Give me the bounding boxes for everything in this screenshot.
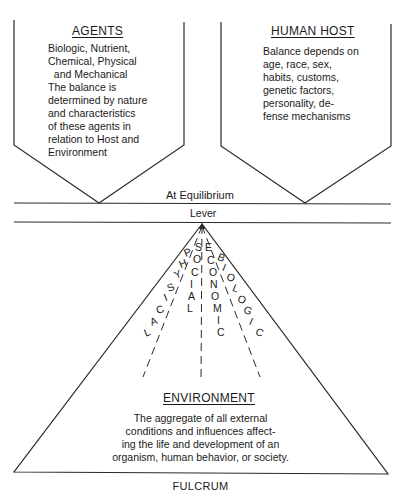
fan-letter: L: [187, 303, 193, 313]
host-line: Balance depends on: [263, 45, 359, 58]
agents-line: The balance is: [48, 81, 116, 94]
fan-letter: O: [193, 254, 201, 264]
host-line: fense mechanisms: [263, 110, 351, 123]
environment-line: The aggregate of all external: [0, 412, 401, 425]
environment-line: conditions and influences affect-: [0, 425, 401, 438]
environment-line: organism, human behavior, or society.: [0, 451, 401, 464]
fan-letter: O: [211, 291, 219, 301]
fan-letter: S: [195, 242, 202, 252]
equilibrium-label: At Equilibrium: [166, 189, 234, 202]
agents-title: AGENTS: [72, 25, 123, 38]
fan-letter: E: [205, 242, 212, 252]
host-line: habits, customs,: [263, 71, 339, 84]
agents-line: Environment: [48, 146, 107, 159]
agents-line: relation to Host and: [48, 133, 139, 146]
environment-title: ENVIRONMENT: [163, 392, 255, 405]
fan-letter: C: [207, 255, 215, 265]
fan-letter: O: [209, 267, 217, 277]
fan-letter: C: [217, 327, 225, 337]
fan-letter: M: [213, 303, 222, 313]
agents-line: and Mechanical: [48, 68, 127, 81]
lever-label: Lever: [190, 207, 216, 220]
lever-top-line: [14, 203, 391, 204]
agents-line: and characteristics: [48, 107, 136, 120]
lever-bottom-line: [14, 222, 391, 223]
host-line: age, race, sex,: [263, 58, 332, 71]
agents-line: Chemical, Physical: [48, 55, 137, 68]
environment-line: ing the life and development of an: [0, 438, 401, 451]
agents-line: determined by nature: [48, 94, 147, 107]
fan-letter: C: [191, 267, 199, 277]
host-line: personality, de-: [263, 97, 334, 110]
agents-line: Biologic, Nutrient,: [48, 42, 130, 55]
fulcrum-label: FULCRUM: [0, 480, 401, 493]
fan-letter: A: [188, 291, 195, 301]
agents-line: of these agents in: [48, 120, 131, 133]
fan-letter: N: [210, 279, 218, 289]
host-line: genetic factors,: [263, 84, 334, 97]
fan-letter: I: [217, 315, 220, 325]
fan-letter: I: [190, 279, 193, 289]
host-title: HUMAN HOST: [271, 25, 355, 38]
